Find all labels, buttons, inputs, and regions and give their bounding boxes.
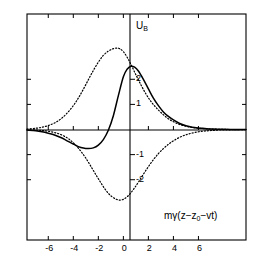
y-axis-label: UB (136, 20, 148, 32)
x-axis-label-prefix: mγ(z−z (164, 210, 197, 221)
y-tick-label: 2 (136, 73, 141, 83)
x-tick-label: -6 (43, 243, 55, 253)
x-tick-label: -2 (93, 243, 105, 253)
x-tick-label: 0 (118, 243, 130, 253)
y-tick-label: -1 (136, 149, 144, 159)
y-tick-label: 1 (136, 98, 141, 108)
plot-frame (27, 14, 246, 240)
chart-plot (0, 0, 260, 280)
y-tick-label: -2 (136, 174, 144, 184)
x-axis-label-suffix: −vt) (200, 210, 217, 221)
tick-marks (27, 14, 246, 240)
x-tick-label: -4 (68, 243, 80, 253)
x-tick-label: 2 (143, 243, 155, 253)
y-axis-label-subscript: B (143, 25, 148, 32)
figure-container: UB mγ(z−z0−vt) -6-4-20246 21-1-2 (0, 0, 260, 280)
dotted-upper-curve (27, 48, 246, 129)
x-axis-label: mγ(z−z0−vt) (164, 210, 217, 222)
dotted-lower-curve (27, 130, 246, 201)
x-tick-label: 4 (168, 243, 180, 253)
x-axis-tick-marks (48, 126, 198, 130)
x-tick-label: 6 (193, 243, 205, 253)
